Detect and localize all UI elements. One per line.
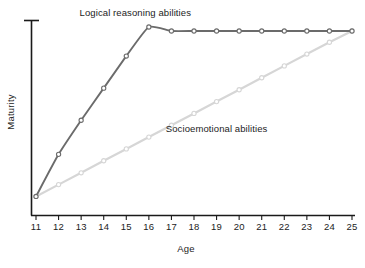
x-axis-tick-label: 25 — [347, 221, 358, 232]
data-point-marker — [79, 171, 83, 175]
x-axis-tick-label: 20 — [234, 221, 245, 232]
data-point-marker — [192, 29, 196, 33]
data-point-marker — [124, 147, 128, 151]
y-axis-title: Maturity — [5, 94, 16, 129]
x-axis-title: Age — [177, 243, 195, 254]
x-axis-tick-label: 16 — [143, 221, 154, 232]
data-point-marker — [102, 86, 106, 90]
x-axis-tick-label: 22 — [279, 221, 290, 232]
chart-axes — [24, 20, 355, 216]
data-point-marker — [34, 194, 38, 198]
x-axis-tick-label: 11 — [31, 221, 41, 232]
data-point-marker — [79, 118, 83, 122]
data-point-marker — [169, 29, 173, 33]
data-point-marker — [124, 54, 128, 58]
line-chart-canvas: 111213141516171819202122232425 Age Matur… — [0, 0, 365, 268]
data-point-marker — [214, 29, 218, 33]
x-axis-tick-label: 24 — [324, 221, 335, 232]
data-point-marker — [214, 99, 218, 103]
data-point-marker — [237, 88, 241, 92]
chart-figure: 111213141516171819202122232425 Age Matur… — [0, 0, 365, 268]
data-point-marker — [282, 64, 286, 68]
socioemotional-markers — [34, 29, 354, 199]
series-socioemotional — [34, 29, 354, 199]
data-point-marker — [56, 152, 60, 156]
data-point-marker — [282, 29, 286, 33]
data-point-marker — [327, 29, 331, 33]
x-axis-tick-labels: 111213141516171819202122232425 — [31, 221, 358, 232]
data-point-marker — [327, 40, 331, 44]
data-point-marker — [102, 159, 106, 163]
logical-reasoning-label: Logical reasoning abilities — [80, 7, 192, 18]
data-point-marker — [237, 29, 241, 33]
data-point-marker — [56, 183, 60, 187]
x-axis-tick-label: 14 — [98, 221, 109, 232]
x-axis-tick-label: 18 — [189, 221, 200, 232]
data-point-marker — [350, 29, 354, 33]
data-point-marker — [147, 25, 151, 29]
data-point-marker — [147, 135, 151, 139]
data-point-marker — [305, 52, 309, 56]
x-axis-tick-label: 23 — [301, 221, 312, 232]
x-axis-tick-label: 17 — [166, 221, 177, 232]
x-axis-tick-label: 15 — [121, 221, 132, 232]
socioemotional-label: Socioemotional abilities — [166, 123, 268, 134]
data-point-marker — [192, 111, 196, 115]
x-axis-tick-label: 13 — [76, 221, 87, 232]
data-point-marker — [260, 29, 264, 33]
x-axis-tick-label: 12 — [53, 221, 64, 232]
data-point-marker — [305, 29, 309, 33]
x-axis-tick-label: 21 — [256, 221, 267, 232]
x-axis-tick-label: 19 — [211, 221, 222, 232]
data-point-marker — [260, 76, 264, 80]
